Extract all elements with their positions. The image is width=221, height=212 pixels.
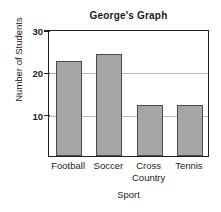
y-axis-title: Number of Students (13, 0, 24, 130)
bar (177, 105, 203, 156)
bar (96, 54, 122, 156)
bar (56, 61, 82, 156)
plot-area: 102030 (48, 30, 209, 157)
chart-title: George's Graph (48, 10, 209, 21)
y-axis-tick-label: 10 (32, 110, 43, 121)
bars-layer (49, 31, 208, 156)
bar-chart: George's Graph Number of Students 102030… (0, 0, 221, 212)
x-axis-title: Sport (48, 189, 209, 200)
bar (137, 105, 163, 156)
y-axis-tick-label: 30 (32, 26, 43, 37)
x-axis-tick-label: Tennis (149, 160, 221, 172)
y-axis-tick-label: 20 (32, 68, 43, 79)
